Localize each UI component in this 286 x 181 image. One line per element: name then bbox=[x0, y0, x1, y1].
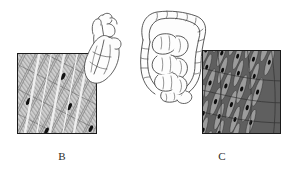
heart-organ-icon bbox=[80, 10, 124, 88]
intestine-organ-icon bbox=[131, 6, 209, 107]
panel-label-b: B bbox=[42, 150, 82, 162]
panel-label-c: C bbox=[202, 150, 242, 162]
smooth-muscle-micrograph bbox=[202, 50, 281, 134]
histology-figure: B C bbox=[0, 0, 286, 181]
